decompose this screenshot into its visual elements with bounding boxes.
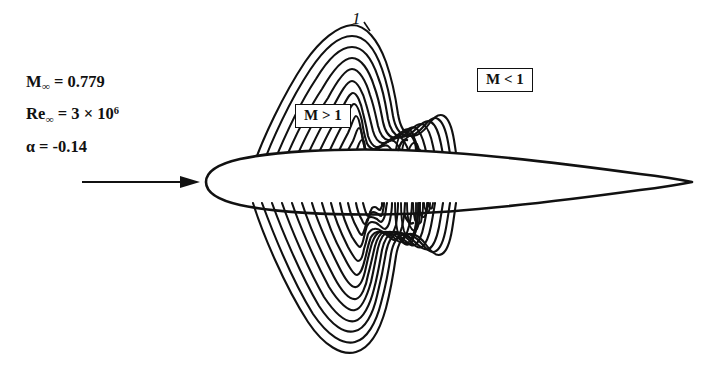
- contour-line: [282, 203, 435, 321]
- mach-subscript: ∞: [42, 80, 50, 92]
- mach-contour-plot: [0, 0, 718, 386]
- upper-contour-group: [253, 25, 458, 167]
- reynolds-equals: =: [54, 105, 72, 124]
- reynolds-symbol: Re: [26, 105, 45, 124]
- reynolds-number-annotation: Re∞ = 3 × 106: [26, 106, 206, 125]
- reynolds-mantissa: 3: [71, 105, 79, 124]
- mach-equals: =: [50, 72, 68, 91]
- figure-canvas: M∞ = 0.779 Re∞ = 3 × 106 α = -0.14 M < 1…: [0, 0, 718, 386]
- sonic-contour-label: 1: [352, 10, 361, 27]
- reynolds-subscript: ∞: [45, 113, 53, 125]
- alpha-value: -0.14: [53, 137, 87, 156]
- flow-conditions-annotations: M∞ = 0.779 Re∞ = 3 × 106 α = -0.14: [26, 74, 206, 169]
- mach-value: 0.779: [68, 72, 105, 91]
- reynolds-times: ×: [80, 105, 98, 124]
- arrow-head: [180, 176, 200, 188]
- lower-contour-group: [253, 203, 456, 353]
- freestream-flow-arrow: [82, 176, 200, 188]
- alpha-symbol: α: [26, 138, 35, 155]
- alpha-equals: =: [35, 137, 53, 156]
- mach-symbol: M: [26, 72, 42, 91]
- reynolds-base: 10: [97, 105, 114, 124]
- angle-of-attack-annotation: α = -0.14: [26, 139, 206, 156]
- reynolds-exponent: 6: [114, 105, 119, 116]
- supersonic-region-label: M > 1: [295, 104, 351, 128]
- subsonic-region-label: M < 1: [477, 68, 533, 92]
- mach-number-annotation: M∞ = 0.779: [26, 74, 206, 92]
